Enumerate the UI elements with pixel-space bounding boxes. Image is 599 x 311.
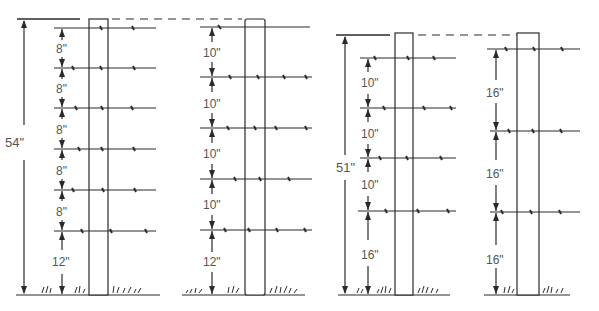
fence-post xyxy=(517,33,539,295)
fence-post xyxy=(245,19,265,295)
fence-post xyxy=(395,33,413,295)
barbs xyxy=(72,26,147,233)
spacing-label: 16" xyxy=(361,248,379,262)
spacing-label: 16" xyxy=(486,253,504,267)
spacing-label: 16" xyxy=(486,86,504,100)
total-height-label: 54" xyxy=(5,135,24,150)
spacing-label: 10" xyxy=(361,127,379,141)
spacing-label: 8" xyxy=(56,42,67,56)
grass xyxy=(186,286,297,293)
spacing-label: 10" xyxy=(203,46,221,60)
spacing-label: 12" xyxy=(203,255,221,269)
spacing-label: 10" xyxy=(361,76,379,90)
spacing-label: 8" xyxy=(56,205,67,219)
spacing-label: 8" xyxy=(56,164,67,178)
fence-post xyxy=(89,19,108,295)
spacing-label: 8" xyxy=(56,82,67,96)
spacing-label: 8" xyxy=(56,123,67,137)
spacing-label: 10" xyxy=(361,178,379,192)
spacing-label: 10" xyxy=(203,97,221,111)
spacing-labels: 16" 16" 16" xyxy=(486,86,504,267)
spacing-label: 10" xyxy=(203,147,221,161)
spacing-label: 16" xyxy=(486,167,504,181)
total-height-label: 51" xyxy=(336,160,355,175)
spacing-label: 10" xyxy=(203,198,221,212)
fence-spacing-diagram: 54" 8" 8" 8" 8" 8" 12" xyxy=(0,0,599,311)
fence-2 xyxy=(182,19,312,295)
spacing-labels: 10" 10" 10" 16" xyxy=(361,76,379,262)
spacing-label: 12" xyxy=(52,255,70,269)
